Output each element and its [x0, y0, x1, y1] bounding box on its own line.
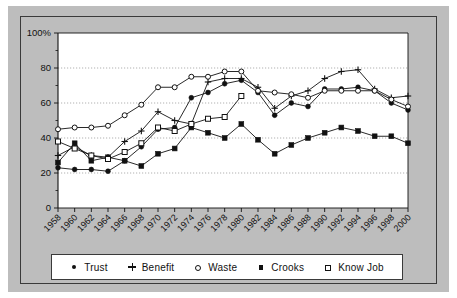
svg-text:1996: 1996 — [358, 212, 379, 233]
svg-text:60: 60 — [40, 97, 51, 108]
chart-legend: Trust Benefit Waste Crooks Know Job — [51, 254, 403, 280]
svg-text:1962: 1962 — [75, 212, 96, 233]
open-square-marker-icon — [324, 263, 333, 272]
plot-container: 020406080100%195819601962196419661968197… — [8, 6, 449, 292]
svg-text:1998: 1998 — [375, 212, 396, 233]
filled-square-marker-icon — [257, 263, 266, 272]
svg-text:1990: 1990 — [308, 212, 329, 233]
svg-text:20: 20 — [40, 167, 51, 178]
svg-text:1984: 1984 — [258, 212, 279, 233]
svg-text:100%: 100% — [27, 27, 52, 38]
legend-label-benefit: Benefit — [142, 262, 175, 273]
svg-text:1960: 1960 — [58, 212, 79, 233]
legend-label-waste: Waste — [208, 262, 237, 273]
svg-text:1974: 1974 — [175, 212, 196, 233]
svg-text:1966: 1966 — [108, 212, 129, 233]
line-chart: 020406080100%195819601962196419661968197… — [8, 6, 449, 292]
svg-text:0: 0 — [46, 202, 51, 213]
legend-label-trust: Trust — [84, 262, 107, 273]
legend-label-know-job: Know Job — [338, 262, 384, 273]
svg-text:2000: 2000 — [392, 212, 413, 233]
svg-text:1988: 1988 — [292, 212, 313, 233]
svg-text:1992: 1992 — [325, 212, 346, 233]
svg-text:1986: 1986 — [275, 212, 296, 233]
svg-text:1980: 1980 — [225, 212, 246, 233]
chart-figure: 020406080100%195819601962196419661968197… — [8, 6, 449, 292]
svg-text:1972: 1972 — [158, 212, 179, 233]
svg-text:1970: 1970 — [142, 212, 163, 233]
svg-text:80: 80 — [40, 62, 51, 73]
svg-text:40: 40 — [40, 132, 51, 143]
legend-label-crooks: Crooks — [271, 262, 304, 273]
svg-text:1958: 1958 — [42, 212, 63, 233]
filled-circle-marker-icon — [70, 263, 79, 272]
open-circle-marker-icon — [194, 263, 203, 272]
svg-text:1982: 1982 — [242, 212, 263, 233]
plus-marker-icon — [128, 263, 137, 272]
svg-text:1978: 1978 — [208, 212, 229, 233]
svg-text:1976: 1976 — [192, 212, 213, 233]
legend-item-trust[interactable]: Trust — [70, 262, 107, 273]
legend-item-benefit[interactable]: Benefit — [128, 262, 175, 273]
svg-text:1968: 1968 — [125, 212, 146, 233]
legend-item-waste[interactable]: Waste — [194, 262, 237, 273]
legend-item-crooks[interactable]: Crooks — [257, 262, 304, 273]
svg-text:1964: 1964 — [92, 212, 113, 233]
svg-text:1994: 1994 — [342, 212, 363, 233]
legend-item-know-job[interactable]: Know Job — [324, 262, 384, 273]
